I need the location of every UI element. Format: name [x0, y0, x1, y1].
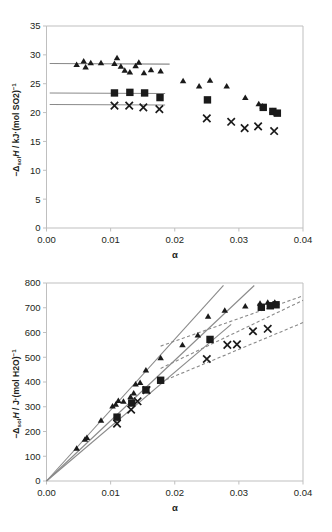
x-axis-ticks-top: 0.000.010.020.030.04: [37, 228, 312, 245]
data-point-triangle: [179, 342, 185, 348]
data-point-triangle: [127, 69, 133, 75]
x-axis-title-bottom: α: [172, 502, 178, 513]
x-tick-label: 0.04: [294, 487, 313, 498]
y-tick-label: 700: [25, 302, 41, 313]
y-tick-label: 0: [35, 475, 40, 486]
data-point-square: [272, 301, 279, 308]
data-point-square: [206, 336, 213, 343]
x-tick-label: 0.00: [37, 234, 56, 245]
data-point-triangle: [73, 62, 79, 68]
y-tick-label: 35: [30, 20, 41, 31]
y-axis-ticks-top: 05101520253035: [30, 20, 47, 233]
data-point-x: [249, 328, 256, 335]
data-point-x: [203, 355, 210, 362]
x-tick-label: 0.01: [101, 487, 120, 498]
data-point-x: [233, 341, 240, 348]
chart-svg-top: 05101520253035 0.000.010.020.030.04 −Δso…: [0, 0, 332, 266]
data-point-triangle: [222, 307, 228, 313]
x-axis-title-top: α: [172, 249, 178, 260]
data-point-triangle: [157, 68, 163, 74]
chart-panel-top: 05101520253035 0.000.010.020.030.04 −Δso…: [0, 0, 332, 266]
y-tick-label: 600: [25, 327, 41, 338]
y-axis-title-top: −ΔsolH / kJ·(mol SO2)−1: [10, 83, 22, 177]
data-point-triangle: [143, 367, 149, 373]
data-point-triangle: [98, 60, 104, 66]
data-point-x: [241, 124, 248, 131]
y-axis-ticks-bottom: 0100200300400500600700800: [25, 277, 47, 486]
fit-line: [50, 64, 170, 65]
data-point-triangle: [115, 397, 121, 403]
chart-panel-bottom: 0100200300400500600700800 0.000.010.020.…: [0, 266, 332, 532]
plot-frame-bottom: [47, 283, 304, 481]
data-points-top: [73, 55, 281, 135]
data-point-square: [274, 109, 281, 116]
y-tick-label: 5: [35, 194, 40, 205]
data-point-x: [224, 341, 231, 348]
data-point-triangle: [207, 77, 213, 83]
data-point-triangle: [205, 313, 211, 319]
data-point-triangle: [180, 78, 186, 84]
data-point-x: [127, 406, 134, 413]
data-point-triangle: [130, 390, 136, 396]
data-point-triangle: [196, 83, 202, 89]
y-tick-label: 300: [25, 401, 41, 412]
y-tick-label: 15: [30, 136, 41, 147]
data-point-triangle: [114, 55, 120, 61]
data-point-x: [270, 127, 277, 134]
data-point-triangle: [242, 303, 248, 309]
x-tick-label: 0.03: [230, 487, 249, 498]
data-point-triangle: [111, 60, 117, 65]
data-point-x: [264, 325, 271, 332]
fit-line: [161, 296, 303, 346]
data-point-square: [111, 89, 118, 96]
y-tick-label: 30: [30, 49, 41, 60]
x-tick-label: 0.01: [101, 234, 120, 245]
data-point-x: [111, 102, 118, 109]
y-tick-label: 0: [35, 222, 40, 233]
x-tick-label: 0.03: [230, 234, 249, 245]
fit-lines-bottom: [47, 285, 304, 481]
x-tick-label: 0.02: [166, 234, 185, 245]
y-tick-label: 25: [30, 78, 41, 89]
data-point-square: [126, 89, 133, 96]
data-point-triangle: [136, 59, 142, 65]
plot-frame-top: [47, 26, 304, 228]
data-point-x: [203, 115, 210, 122]
svg-text:−ΔsolH / J·(mol H2O)−1: −ΔsolH / J·(mol H2O)−1: [10, 349, 22, 439]
data-point-triangle: [242, 94, 248, 100]
fit-line: [161, 300, 303, 368]
y-axis-title-bottom: −ΔsolH / J·(mol H2O)−1: [10, 349, 22, 439]
y-tick-label: 200: [25, 426, 41, 437]
x-axis-ticks-bottom: 0.000.010.020.030.04: [37, 481, 312, 498]
data-point-triangle: [73, 445, 79, 451]
data-point-triangle: [80, 58, 86, 64]
data-point-triangle: [141, 70, 147, 76]
y-tick-label: 100: [25, 451, 41, 462]
data-point-square: [113, 413, 120, 420]
data-point-triangle: [148, 67, 154, 73]
x-tick-label: 0.04: [294, 234, 313, 245]
data-point-square: [157, 377, 164, 384]
y-tick-label: 20: [30, 107, 41, 118]
svg-text:−ΔsolH / kJ·(mol SO2)−1: −ΔsolH / kJ·(mol SO2)−1: [10, 83, 22, 177]
data-point-square: [260, 104, 267, 111]
y-tick-label: 400: [25, 376, 41, 387]
chart-svg-bottom: 0100200300400500600700800 0.000.010.020.…: [0, 266, 332, 532]
data-point-square: [258, 304, 265, 311]
data-point-x: [227, 118, 234, 125]
data-point-x: [126, 102, 133, 109]
y-tick-label: 500: [25, 352, 41, 363]
x-tick-label: 0.02: [166, 487, 185, 498]
fit-line: [47, 285, 255, 481]
x-tick-label: 0.00: [37, 487, 56, 498]
data-point-square: [141, 89, 148, 96]
data-point-square: [204, 96, 211, 103]
y-tick-label: 800: [25, 277, 41, 288]
figure-two-panel-scatter: 05101520253035 0.000.010.020.030.04 −Δso…: [0, 0, 332, 532]
data-point-square: [156, 94, 163, 101]
data-point-x: [254, 123, 261, 130]
data-point-x: [156, 105, 163, 112]
data-point-triangle: [223, 83, 229, 89]
fit-line: [50, 104, 165, 105]
data-point-triangle: [87, 60, 93, 66]
